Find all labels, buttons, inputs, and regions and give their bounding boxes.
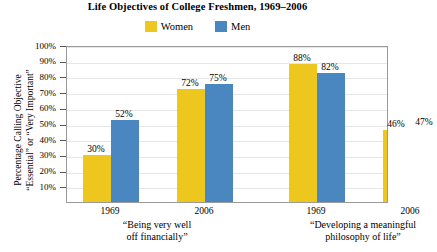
bar-men-1969-g1[interactable] [317,73,345,202]
bar-value-label: 82% [312,62,348,72]
chart-legend: Women Men [0,21,395,32]
y-axis-tick-label: 50% [22,120,56,129]
chart-title: Life Objectives of College Freshmen, 196… [0,1,395,12]
y-axis-tick-label: 10% [22,183,56,192]
gridline [67,47,387,48]
y-axis-tick-label: 40% [22,136,56,145]
bar-women-1969-g1[interactable] [289,64,317,202]
x-axis-year-label: 1969 [278,206,354,216]
legend-item-women: Women [145,21,193,32]
x-axis-category-label-line: “Being very well [72,219,242,231]
bar-women-2006-g0[interactable] [177,89,205,202]
x-axis-category-label-line: philosophy of life” [278,231,437,243]
bar-value-label: 52% [106,109,142,119]
bar-value-label: 88% [284,53,320,63]
x-axis-category-label-line: “Developing a meaningful [278,219,437,231]
x-axis-year-label: 2006 [166,206,242,216]
bar-women-1969-g0[interactable] [83,155,111,202]
legend-label-women: Women [161,21,193,32]
y-axis-tick-label: 100% [22,42,56,51]
y-axis-tick-label: 60% [22,104,56,113]
legend-label-men: Men [231,21,250,32]
x-axis-year-label: 1969 [72,206,148,216]
y-axis-tick-label: 70% [22,89,56,98]
bar-men-2006-g0[interactable] [205,84,233,202]
x-axis-category-label: “Developing a meaningfulphilosophy of li… [278,219,437,243]
y-axis-tick-label: 90% [22,57,56,66]
y-axis-tick-label: 20% [22,167,56,176]
x-axis-category-label: “Being very welloff financially” [72,219,242,243]
bar-value-label: 30% [78,144,114,154]
y-axis-tick-label: 80% [22,73,56,82]
bar-value-label: 75% [200,73,236,83]
legend-item-men: Men [215,21,250,32]
legend-swatch-men [215,21,227,32]
y-axis-tick-label: 30% [22,151,56,160]
x-axis-year-label: 2006 [372,206,437,216]
x-axis-category-label-line: off financially” [72,231,242,243]
bar-men-1969-g0[interactable] [111,120,139,202]
bar-women-2006-g1[interactable] [383,130,388,202]
legend-swatch-women [145,21,157,32]
bar-value-label: 47% [406,117,437,127]
